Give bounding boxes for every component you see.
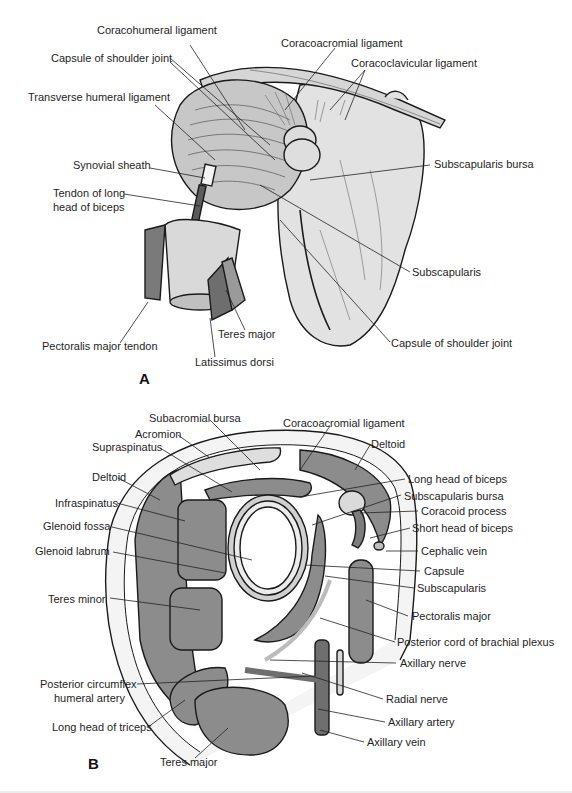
panel-a-illustration [145, 67, 445, 346]
label-deltoid-right: Deltoid [371, 438, 405, 451]
panel-letter-b: B [88, 755, 99, 772]
label-synovial-sheath: Synovial sheath [73, 159, 151, 172]
label-subscapularis-b: Subscapularis [417, 582, 486, 595]
label-posterior-circumflex-line1: Posterior circumflex [40, 678, 137, 691]
label-coracoacromial-ligament-b: Coracoacromial ligament [283, 417, 405, 430]
label-tendon-of-long-line1: Tendon of long [53, 187, 125, 200]
label-long-head-of-biceps: Long head of biceps [408, 473, 507, 486]
label-coracoid-process: Coracoid process [421, 505, 507, 518]
label-subscapularis-a: Subscapularis [412, 266, 481, 279]
label-posterior-circumflex-line2: humeral artery [54, 692, 125, 705]
label-subscapularis-bursa-b: Subscapularis bursa [404, 490, 504, 503]
label-infraspinatus: Infraspinatus [55, 497, 118, 510]
label-coracoacromial-ligament: Coracoacromial ligament [281, 37, 403, 50]
label-teres-major-b: Teres major [160, 756, 217, 769]
label-short-head-of-biceps: Short head of biceps [412, 522, 513, 535]
label-cephalic-vein: Cephalic vein [421, 545, 487, 558]
label-latissimus-dorsi: Latissimus dorsi [195, 356, 274, 369]
label-subacromial-bursa: Subacromial bursa [149, 412, 241, 425]
panel-letter-a: A [139, 370, 150, 387]
label-axillary-nerve: Axillary nerve [400, 657, 466, 670]
anatomy-figure: Coracohumeral ligament Coracoacromial li… [0, 0, 572, 793]
label-coracoclavicular-ligament: Coracoclavicular ligament [351, 57, 477, 70]
label-transverse-humeral-ligament: Transverse humeral ligament [28, 91, 170, 104]
label-deltoid-left: Deltoid [92, 471, 126, 484]
label-radial-nerve: Radial nerve [386, 693, 448, 706]
label-tendon-of-long-line2: head of biceps [53, 201, 125, 214]
panel-b-illustration [106, 430, 417, 765]
label-capsule-of-shoulder-joint-bottom: Capsule of shoulder joint [391, 337, 512, 350]
label-subscapularis-bursa-a: Subscapularis bursa [434, 158, 534, 171]
label-supraspinatus: Supraspinatus [92, 441, 162, 454]
label-axillary-vein: Axillary vein [367, 736, 426, 749]
shoulder-illustrations [0, 0, 572, 793]
label-long-head-of-triceps: Long head of triceps [52, 721, 152, 734]
label-posterior-cord-brachial-plexus: Posterior cord of brachial plexus [397, 636, 554, 649]
label-pectoralis-major: Pectoralis major [412, 610, 491, 623]
label-glenoid-fossa: Glenoid fossa [43, 520, 110, 533]
label-capsule-of-shoulder-joint-top: Capsule of shoulder joint [51, 52, 172, 65]
label-teres-major-a: Teres major [218, 328, 275, 341]
label-teres-minor: Teres minor [48, 593, 105, 606]
label-glenoid-labrum: Glenoid labrum [35, 545, 110, 558]
label-coracohumeral-ligament: Coracohumeral ligament [97, 24, 217, 37]
label-capsule: Capsule [424, 565, 464, 578]
label-axillary-artery: Axillary artery [388, 716, 455, 729]
label-acromion: Acromion [135, 428, 181, 441]
label-pectoralis-major-tendon: Pectoralis major tendon [42, 340, 158, 353]
